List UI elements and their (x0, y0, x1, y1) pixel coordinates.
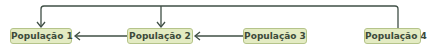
node-populacao-1: População 1 (10, 28, 72, 44)
node-populacao-4: População 4 (364, 28, 421, 44)
edge-p4-to-p1 (41, 6, 398, 28)
flow-diagram: População 1 População 2 População 3 Popu… (0, 0, 431, 48)
node-populacao-3: População 3 (243, 28, 307, 44)
node-populacao-2: População 2 (127, 28, 193, 44)
